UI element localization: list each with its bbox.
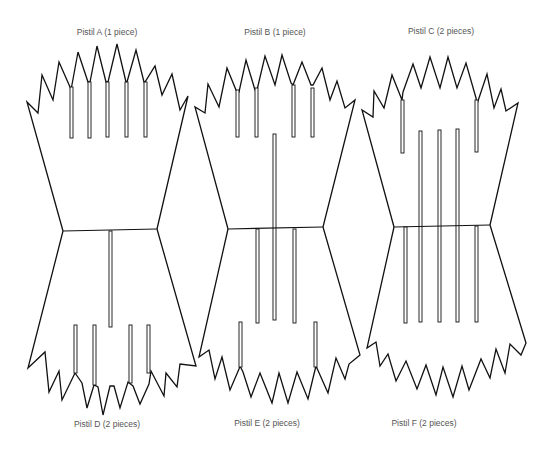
slit-e-4 <box>314 322 317 367</box>
pistil-templates-diagram <box>0 0 546 455</box>
slit-d-4 <box>147 325 150 373</box>
slit-b-4 <box>311 88 314 137</box>
slit-f-1 <box>404 227 407 323</box>
pistil-b-shape <box>195 55 355 320</box>
pistil-d-shape <box>28 229 196 415</box>
slit-c-1 <box>401 100 404 153</box>
slit-b-e-center <box>273 134 276 320</box>
slit-e-3 <box>293 229 296 323</box>
slit-e-1 <box>239 322 242 367</box>
slit-a-4 <box>125 82 128 137</box>
slit-f-5 <box>475 226 478 322</box>
slit-b-1 <box>236 90 239 137</box>
pistil-f-shape <box>367 225 526 397</box>
pistil-c-shape <box>362 57 518 322</box>
slit-c-2 <box>475 100 478 152</box>
slit-a-3 <box>106 82 109 137</box>
slit-d-center <box>109 231 112 327</box>
slit-d-3 <box>129 325 132 383</box>
pistil-a-shape <box>27 44 188 231</box>
slit-a-1 <box>70 87 73 138</box>
slit-a-5 <box>144 82 147 137</box>
pistil-e-shape <box>199 227 360 403</box>
slit-a-2 <box>88 82 91 138</box>
slit-d-1 <box>74 325 77 373</box>
slit-b-2 <box>255 88 258 137</box>
slit-e-2 <box>256 229 259 323</box>
slit-b-3 <box>292 85 295 137</box>
slit-d-2 <box>93 325 96 385</box>
